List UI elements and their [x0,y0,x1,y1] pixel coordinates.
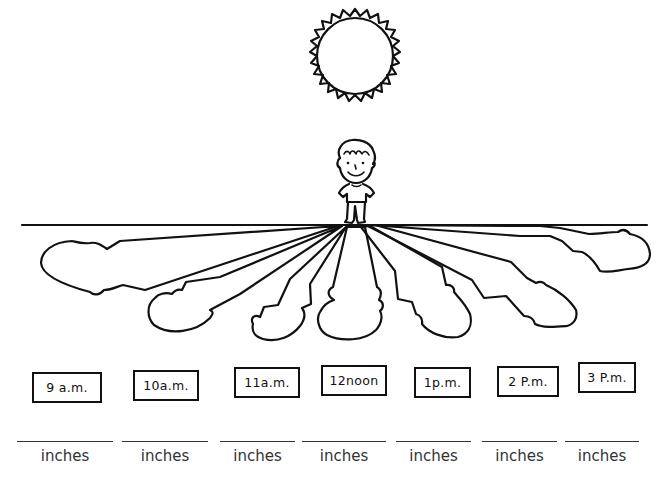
answer-blank-line[interactable] [396,441,471,442]
unit-label: inches [302,447,386,465]
shadow-2pm [368,225,577,327]
time-box-2pm: 2 P.m. [497,366,559,397]
boy-figure [337,140,375,223]
shadow-illustration [0,0,669,497]
answer-slot-12noon[interactable]: inches [302,441,386,442]
answer-slot-11am[interactable]: inches [220,441,295,442]
answer-slot-1pm[interactable]: inches [396,441,471,442]
time-box-1pm: 1p.m. [414,367,471,398]
answer-slot-10am[interactable]: inches [122,441,208,442]
unit-label: inches [220,447,295,465]
unit-label: inches [122,447,208,465]
unit-label: inches [396,447,471,465]
unit-label: inches [482,447,557,465]
time-box-3pm: 3 P.m. [578,362,636,393]
time-box-9am: 9 a.m. [32,372,102,403]
shadow-1pm [361,226,471,337]
answer-slot-3pm[interactable]: inches [565,441,639,442]
unit-label: inches [565,447,639,465]
time-box-12noon: 12noon [321,365,387,396]
shadow-9am [41,226,338,294]
sun-icon [310,9,400,101]
answer-blank-line[interactable] [565,441,639,442]
answer-blank-line[interactable] [122,441,208,442]
time-box-10am: 10a.m. [133,370,199,401]
answer-slot-9am[interactable]: inches [17,441,113,442]
time-box-11am: 11a.m. [234,367,300,398]
answer-blank-line[interactable] [220,441,295,442]
unit-label: inches [17,447,113,465]
answer-slot-2pm[interactable]: inches [482,441,557,442]
answer-blank-line[interactable] [17,441,113,442]
shadows [41,225,650,340]
answer-blank-line[interactable] [482,441,557,442]
answer-blank-line[interactable] [302,441,386,442]
